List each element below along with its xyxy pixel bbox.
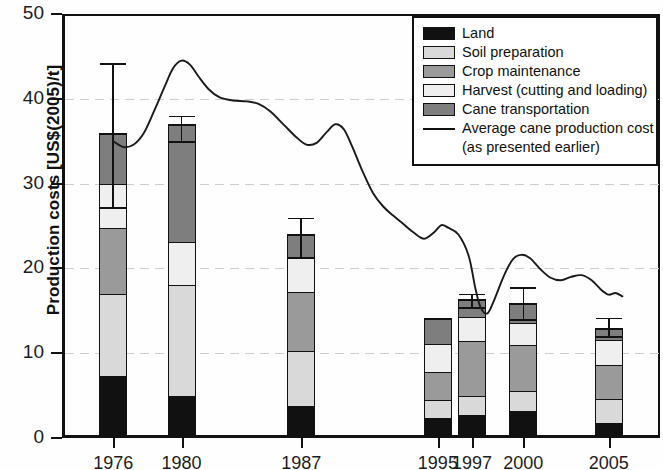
legend-label: Land bbox=[462, 24, 494, 43]
y-axis-tick bbox=[51, 183, 62, 185]
legend-item: Land bbox=[423, 24, 649, 43]
x-axis-tick bbox=[301, 438, 303, 448]
legend-label: Crop maintenance bbox=[462, 62, 581, 81]
x-axis-tick-label: 1980 bbox=[162, 453, 202, 470]
x-axis-tick bbox=[438, 438, 440, 448]
legend-swatch-icon bbox=[423, 103, 455, 116]
legend-swatch-icon bbox=[423, 46, 455, 59]
legend-swatch-icon bbox=[423, 84, 455, 97]
x-axis-tick-label: 2000 bbox=[503, 453, 543, 470]
x-axis-tick-label: 2005 bbox=[589, 453, 629, 470]
x-axis-tick-label: 1976 bbox=[93, 453, 133, 470]
y-axis-tick bbox=[51, 13, 62, 15]
y-axis-tick bbox=[51, 352, 62, 354]
chart-figure: Production costs [US$(2005)/t] 010203040… bbox=[0, 0, 663, 470]
legend-item: Harvest (cutting and loading) bbox=[423, 81, 649, 100]
legend-line-icon bbox=[423, 122, 455, 135]
legend-label: Cane transportation bbox=[462, 100, 589, 119]
x-axis-tick bbox=[182, 438, 184, 448]
x-axis-tick bbox=[609, 438, 611, 448]
y-axis-tick-label: 20 bbox=[2, 256, 44, 278]
x-axis-tick-label: 1987 bbox=[281, 453, 321, 470]
y-axis-tick bbox=[51, 98, 62, 100]
legend-label: Average cane production cost bbox=[462, 119, 654, 138]
y-axis-tick bbox=[51, 437, 62, 439]
legend-item: Crop maintenance bbox=[423, 62, 649, 81]
y-axis-tick-label: 50 bbox=[2, 2, 44, 24]
y-axis-title: Production costs [US$(2005)/t] bbox=[44, 40, 64, 340]
y-axis-tick-label: 0 bbox=[2, 426, 44, 448]
legend-item: Cane transportation bbox=[423, 100, 649, 119]
legend: LandSoil preparationCrop maintenanceHarv… bbox=[412, 16, 658, 166]
y-axis-tick-label: 40 bbox=[2, 87, 44, 109]
legend-swatch-icon bbox=[423, 65, 455, 78]
x-axis-tick-label: 1997 bbox=[452, 453, 492, 470]
x-axis-tick bbox=[523, 438, 525, 448]
y-axis-tick bbox=[51, 267, 62, 269]
y-axis-tick-label: 30 bbox=[2, 172, 44, 194]
x-axis-tick bbox=[472, 438, 474, 448]
legend-swatch-icon bbox=[423, 27, 455, 40]
legend-label: Soil preparation bbox=[462, 43, 564, 62]
legend-item: Soil preparation bbox=[423, 43, 649, 62]
legend-item: Average cane production cost bbox=[423, 119, 649, 138]
legend-label: Harvest (cutting and loading) bbox=[462, 81, 647, 100]
y-axis-tick-label: 10 bbox=[2, 341, 44, 363]
legend-label-continuation: (as presented earlier) bbox=[423, 138, 649, 157]
x-axis-tick bbox=[113, 438, 115, 448]
